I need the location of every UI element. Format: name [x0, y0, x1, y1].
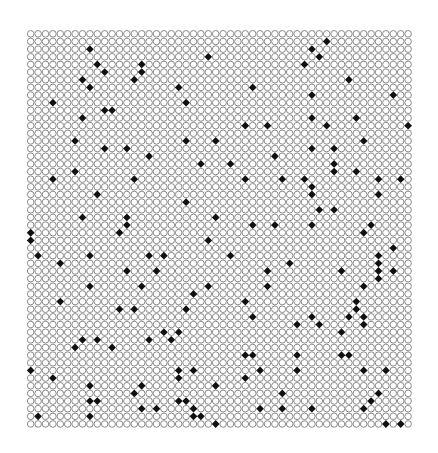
hollow-circle — [79, 352, 86, 359]
hollow-circle — [249, 191, 256, 198]
hollow-circle — [124, 168, 131, 175]
hollow-circle — [323, 367, 330, 374]
hollow-circle — [79, 344, 86, 351]
hollow-circle — [190, 245, 197, 252]
hollow-circle — [183, 31, 190, 38]
hollow-circle — [331, 268, 338, 275]
hollow-circle — [338, 206, 345, 213]
filled-dot — [315, 53, 323, 61]
hollow-circle — [50, 413, 57, 420]
filled-dot — [145, 336, 153, 344]
filled-dot — [249, 313, 257, 321]
hollow-circle — [138, 275, 145, 282]
hollow-circle — [131, 344, 138, 351]
hollow-circle — [301, 283, 308, 290]
hollow-circle — [390, 31, 397, 38]
hollow-circle — [338, 130, 345, 137]
hollow-circle — [138, 359, 145, 366]
hollow-circle — [375, 38, 382, 45]
hollow-circle — [227, 237, 234, 244]
hollow-circle — [94, 153, 101, 160]
hollow-circle — [168, 352, 175, 359]
hollow-circle — [338, 298, 345, 305]
hollow-circle — [353, 214, 360, 221]
hollow-circle — [161, 237, 168, 244]
hollow-circle — [94, 206, 101, 213]
hollow-circle — [353, 229, 360, 236]
hollow-circle — [205, 306, 212, 313]
hollow-circle — [338, 398, 345, 405]
hollow-circle — [79, 153, 86, 160]
hollow-circle — [309, 337, 316, 344]
hollow-circle — [175, 344, 182, 351]
hollow-circle — [64, 199, 71, 206]
hollow-circle — [368, 237, 375, 244]
hollow-circle — [87, 168, 94, 175]
hollow-circle — [205, 367, 212, 374]
hollow-circle — [257, 184, 264, 191]
hollow-circle — [360, 184, 367, 191]
hollow-circle — [272, 260, 279, 267]
hollow-circle — [79, 53, 86, 60]
hollow-circle — [57, 153, 64, 160]
hollow-circle — [383, 291, 390, 298]
hollow-circle — [272, 245, 279, 252]
hollow-circle — [331, 92, 338, 99]
hollow-circle — [272, 107, 279, 114]
hollow-circle — [72, 61, 79, 68]
hollow-circle — [161, 214, 168, 221]
hollow-circle — [94, 382, 101, 389]
hollow-circle — [50, 69, 57, 76]
hollow-circle — [131, 69, 138, 76]
hollow-circle — [205, 214, 212, 221]
hollow-circle — [272, 283, 279, 290]
hollow-circle — [301, 214, 308, 221]
hollow-circle — [42, 161, 49, 168]
hollow-circle — [397, 367, 404, 374]
hollow-circle — [294, 222, 301, 229]
hollow-circle — [257, 214, 264, 221]
hollow-circle — [264, 352, 271, 359]
hollow-circle — [183, 191, 190, 198]
hollow-circle — [249, 291, 256, 298]
hollow-circle — [397, 382, 404, 389]
hollow-circle — [316, 367, 323, 374]
hollow-circle — [390, 367, 397, 374]
hollow-circle — [227, 260, 234, 267]
hollow-circle — [161, 61, 168, 68]
hollow-circle — [131, 46, 138, 53]
hollow-circle — [405, 321, 412, 328]
hollow-circle — [153, 153, 160, 160]
hollow-circle — [346, 275, 353, 282]
hollow-circle — [220, 61, 227, 68]
hollow-circle — [272, 298, 279, 305]
hollow-circle — [101, 99, 108, 106]
hollow-circle — [242, 61, 249, 68]
hollow-circle — [309, 329, 316, 336]
hollow-circle — [138, 130, 145, 137]
hollow-circle — [87, 390, 94, 397]
hollow-circle — [249, 344, 256, 351]
hollow-circle — [50, 359, 57, 366]
hollow-circle — [153, 176, 160, 183]
hollow-circle — [235, 153, 242, 160]
hollow-circle — [161, 275, 168, 282]
hollow-circle — [323, 382, 330, 389]
hollow-circle — [116, 291, 123, 298]
hollow-circle — [249, 92, 256, 99]
filled-dot — [397, 420, 405, 428]
hollow-circle — [383, 38, 390, 45]
hollow-circle — [353, 69, 360, 76]
hollow-circle — [338, 138, 345, 145]
hollow-circle — [42, 69, 49, 76]
hollow-circle — [346, 130, 353, 137]
hollow-circle — [146, 421, 153, 428]
hollow-circle — [146, 245, 153, 252]
hollow-circle — [353, 99, 360, 106]
hollow-circle — [124, 84, 131, 91]
hollow-circle — [301, 306, 308, 313]
hollow-circle — [131, 122, 138, 129]
hollow-circle — [175, 99, 182, 106]
hollow-circle — [190, 390, 197, 397]
hollow-circle — [272, 421, 279, 428]
